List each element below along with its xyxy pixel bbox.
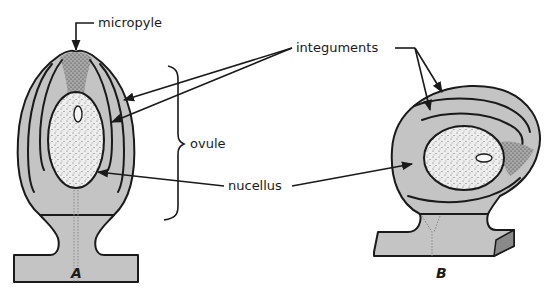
nucellus-callout: nucellus bbox=[98, 164, 412, 193]
panel-label-a-visible: A bbox=[70, 265, 82, 281]
integuments-callout: integuments bbox=[112, 40, 442, 122]
panel-label-b: B bbox=[436, 265, 447, 281]
embryo-sac-b bbox=[476, 154, 492, 162]
funiculus-base-b bbox=[374, 214, 514, 256]
ovule-callout: ovule bbox=[164, 66, 226, 220]
micropyle-label: micropyle bbox=[98, 15, 162, 30]
ovule-diagram: micropyle integuments ovule nucellus A A… bbox=[0, 0, 560, 291]
ovule-label: ovule bbox=[190, 136, 226, 151]
ovule-brace bbox=[164, 66, 184, 220]
embryo-sac-a bbox=[74, 106, 82, 122]
integuments-label: integuments bbox=[296, 40, 378, 55]
micropyle-callout: micropyle bbox=[76, 15, 162, 50]
panel-b-ovule bbox=[374, 86, 540, 256]
nucellus-label: nucellus bbox=[228, 178, 282, 193]
panel-a-ovule bbox=[14, 51, 138, 282]
